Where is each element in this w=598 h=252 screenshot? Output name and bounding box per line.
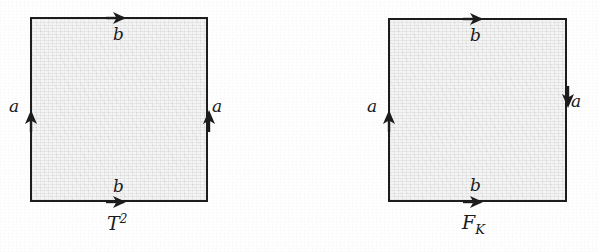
- edge-label-top-torus: b: [113, 26, 124, 43]
- edge-label-left-torus: a: [9, 98, 19, 115]
- arrow-left-up-torus: [22, 108, 40, 134]
- arrow-left-up-klein: [380, 108, 398, 134]
- diagram-canvas: b b a a T2: [0, 0, 598, 252]
- edge-label-right-klein: a: [571, 93, 581, 110]
- arrow-bottom-right-klein: [461, 193, 485, 211]
- edge-label-bottom-klein: b: [470, 177, 481, 194]
- edge-label-bottom-torus: b: [113, 178, 124, 195]
- edge-label-right-torus: a: [212, 98, 222, 115]
- edge-label-top-klein: b: [470, 27, 481, 44]
- caption-torus-base: T: [107, 212, 120, 234]
- caption-klein-subscript: K: [475, 222, 485, 237]
- caption-klein-bottle: FK: [462, 213, 485, 236]
- square-torus: [30, 17, 208, 202]
- caption-torus-exponent: 2: [120, 212, 128, 226]
- caption-klein-base: F: [462, 211, 475, 233]
- edge-label-left-klein: a: [367, 98, 377, 115]
- caption-torus: T2: [107, 213, 127, 233]
